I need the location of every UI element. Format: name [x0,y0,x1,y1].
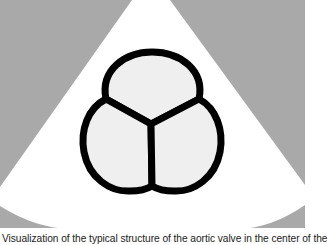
aortic-valve-figure [0,0,307,230]
aortic-valve-diagram [0,0,307,230]
sector-bottom-fill [0,228,307,230]
figure-caption: Visualization of the typical structure o… [2,233,322,245]
right-margin [305,0,307,230]
